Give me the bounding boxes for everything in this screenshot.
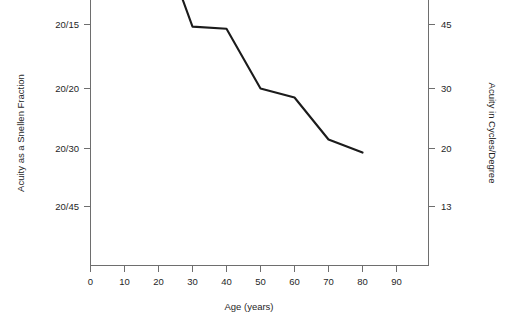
right-axis-tick-labels: 45 30 20 13 [441,19,452,212]
y-right-axis-title: Acuity in Cycles/Degree [487,83,498,184]
left-tick-label: 20/15 [55,19,79,30]
left-tick-label: 20/20 [55,83,79,94]
right-axis-ticks [429,25,436,207]
x-tick-label: 0 [88,276,93,287]
chart-container: 20/15 20/20 20/30 20/45 Acuity as a Snel… [0,0,506,332]
x-axis-title: Age (years) [224,301,273,312]
x-tick-label: 50 [255,276,266,287]
x-tick-label: 30 [187,276,198,287]
plot-axes [91,0,429,266]
data-series-line [159,0,363,153]
x-tick-label: 80 [357,276,368,287]
x-tick-label: 70 [323,276,334,287]
acuity-line-chart: 20/15 20/20 20/30 20/45 Acuity as a Snel… [0,0,506,332]
x-axis-ticks [91,266,397,273]
right-tick-label: 30 [441,83,452,94]
left-tick-label: 20/30 [55,143,79,154]
left-tick-label: 20/45 [55,201,79,212]
x-tick-label: 90 [391,276,402,287]
y-left-axis-title: Acuity as a Snellen Fraction [15,74,26,192]
x-tick-label: 60 [289,276,300,287]
right-tick-label: 13 [441,201,452,212]
x-tick-label: 10 [119,276,130,287]
x-axis-tick-labels: 0 10 20 30 40 50 60 70 80 90 [88,276,402,287]
right-tick-label: 45 [441,19,452,30]
right-tick-label: 20 [441,143,452,154]
x-tick-label: 40 [221,276,232,287]
x-tick-label: 20 [153,276,164,287]
left-axis-ticks [84,25,91,207]
left-axis-tick-labels: 20/15 20/20 20/30 20/45 [55,19,79,212]
